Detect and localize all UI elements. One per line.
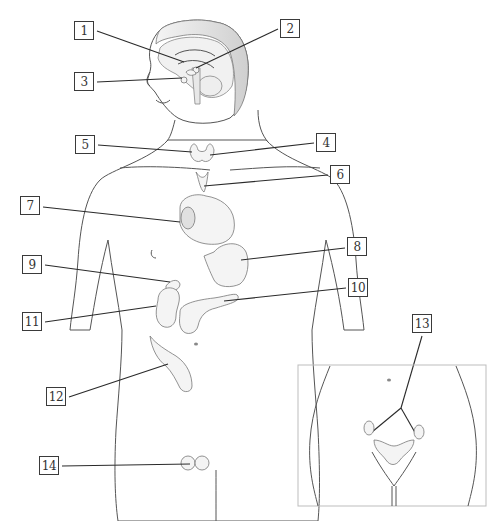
thymus-gland: [196, 172, 208, 192]
organs: [150, 67, 248, 470]
colon: [150, 336, 192, 392]
female-inset: [298, 365, 486, 506]
stomach: [204, 244, 248, 287]
cerebellum: [198, 76, 222, 96]
ovary-right: [414, 425, 424, 439]
label-2: 2: [280, 19, 300, 38]
uterus: [374, 440, 414, 465]
label-6: 6: [330, 165, 350, 184]
label-9: 9: [22, 255, 42, 274]
torso-outline: [70, 140, 364, 521]
navel: [194, 343, 198, 346]
label-13: 13: [412, 314, 432, 333]
neck-outline: [166, 110, 268, 142]
heart-chamber: [181, 207, 195, 229]
label-3: 3: [74, 72, 94, 91]
label-8: 8: [347, 237, 367, 256]
label-14: 14: [39, 456, 59, 475]
thyroid-gland: [190, 144, 214, 162]
inset-navel: [387, 379, 391, 382]
testis-left: [181, 456, 195, 470]
testis-right: [195, 456, 209, 470]
label-11: 11: [22, 312, 42, 331]
ovary-left: [364, 421, 374, 435]
label-7: 7: [20, 196, 40, 215]
label-12: 12: [46, 387, 66, 406]
label-1: 1: [74, 21, 94, 40]
label-10: 10: [348, 278, 368, 297]
label-4: 4: [316, 133, 336, 152]
kidney: [156, 288, 179, 327]
label-5: 5: [75, 135, 95, 154]
